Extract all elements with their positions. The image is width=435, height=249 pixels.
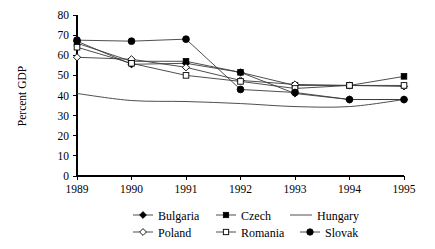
- y-axis-title: Percent GDP: [16, 66, 28, 126]
- y-tick-label: 60: [58, 49, 70, 61]
- y-tick-label: 70: [58, 29, 70, 41]
- y-tick-label: 0: [63, 170, 69, 182]
- x-tick-label: 1995: [393, 183, 416, 195]
- y-tick-label: 50: [58, 69, 70, 81]
- x-tick-label: 1990: [120, 183, 143, 195]
- y-tick-label: 80: [58, 9, 70, 21]
- chart-figure: 01020304050607080 1989199019911992199319…: [0, 0, 435, 249]
- series-marker: [238, 79, 244, 85]
- series-marker: [237, 86, 244, 93]
- y-tick-label: 40: [58, 90, 70, 102]
- series-marker: [292, 89, 299, 96]
- legend-label: Slovak: [325, 226, 358, 240]
- legend-item-hungary[interactable]: Hungary: [290, 209, 359, 223]
- legend-label: Bulgaria: [158, 209, 200, 223]
- legend-label: Hungary: [317, 209, 359, 223]
- x-axis-ticks: 1989199019911992199319941995: [66, 176, 416, 195]
- x-tick-label: 1993: [284, 183, 307, 195]
- series-line: [77, 93, 404, 107]
- series-marker: [183, 73, 189, 79]
- x-tick-label: 1991: [175, 183, 198, 195]
- series-marker: [401, 74, 407, 80]
- series-marker: [223, 229, 228, 234]
- legend-label: Romania: [241, 226, 285, 240]
- series-marker: [307, 229, 313, 235]
- legend-label: Czech: [241, 209, 271, 223]
- series-marker: [73, 54, 80, 61]
- x-tick-label: 1992: [229, 183, 252, 195]
- series-marker: [74, 44, 80, 50]
- legend-item-slovak[interactable]: Slovak: [300, 226, 358, 240]
- series-marker: [183, 36, 190, 43]
- chart-series-group: [73, 36, 407, 107]
- x-tick-label: 1989: [66, 183, 89, 195]
- series-hungary: [77, 93, 404, 107]
- series-marker: [140, 229, 147, 236]
- chart-legend: BulgariaCzechHungaryPolandRomaniaSlovak: [133, 209, 359, 240]
- legend-item-romania[interactable]: Romania: [216, 226, 285, 240]
- y-axis-ticks: 01020304050607080: [58, 9, 78, 182]
- x-tick-label: 1994: [338, 183, 361, 195]
- series-marker: [346, 96, 353, 103]
- series-marker: [347, 83, 353, 89]
- series-marker: [401, 83, 407, 89]
- legend-label: Poland: [158, 226, 191, 240]
- series-marker: [128, 38, 135, 45]
- line-chart: 01020304050607080 1989199019911992199319…: [0, 0, 435, 249]
- y-tick-label: 20: [58, 130, 70, 142]
- series-marker: [129, 61, 135, 67]
- series-marker: [401, 96, 408, 103]
- y-tick-label: 30: [58, 110, 70, 122]
- legend-item-poland[interactable]: Poland: [133, 226, 191, 240]
- y-axis-title-text: Percent GDP: [16, 66, 28, 126]
- legend-item-bulgaria[interactable]: Bulgaria: [133, 209, 200, 223]
- series-marker: [223, 212, 228, 217]
- legend-item-czech[interactable]: Czech: [216, 209, 271, 223]
- chart-axes: [77, 15, 404, 176]
- y-tick-label: 10: [58, 150, 70, 162]
- series-marker: [140, 212, 147, 219]
- series-marker: [238, 70, 244, 76]
- series-marker: [74, 37, 81, 44]
